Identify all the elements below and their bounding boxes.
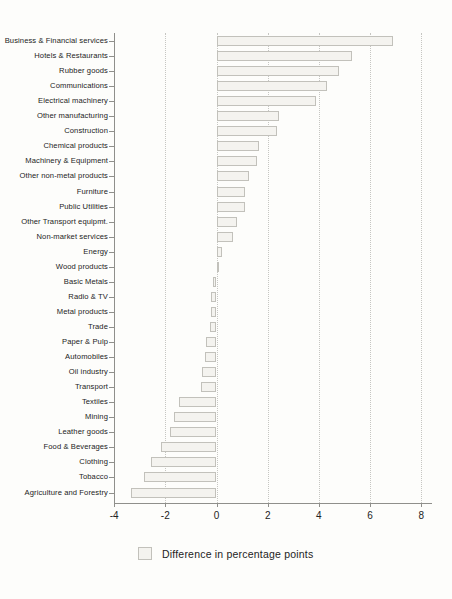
category-label: Hotels & Restaurants	[0, 51, 108, 61]
bar	[211, 292, 216, 302]
x-tick-label: 0	[204, 510, 230, 522]
category-label: Trade	[0, 322, 108, 332]
y-axis-tick	[109, 101, 114, 102]
category-label: Communications	[0, 81, 108, 91]
bar	[217, 171, 249, 181]
y-axis-tick	[109, 176, 114, 177]
category-label: Rubber goods	[0, 66, 108, 76]
legend-label: Difference in percentage points	[162, 548, 313, 560]
bar	[217, 126, 277, 136]
category-label: Oil industry	[0, 367, 108, 377]
category-label: Agriculture and Forestry	[0, 488, 108, 498]
bar	[217, 96, 317, 106]
gridline	[370, 33, 371, 503]
x-tick-label: 2	[255, 510, 281, 522]
y-axis-tick	[109, 282, 114, 283]
bar	[202, 367, 216, 377]
x-axis-tick	[268, 503, 269, 507]
bar	[217, 141, 259, 151]
category-label: Leather goods	[0, 427, 108, 437]
y-axis-line	[114, 33, 115, 503]
bar	[210, 322, 216, 332]
y-axis-tick	[109, 462, 114, 463]
bar	[217, 202, 245, 212]
bar	[179, 397, 216, 407]
y-axis-tick	[109, 116, 114, 117]
category-label: Metal products	[0, 307, 108, 317]
bar	[217, 156, 258, 166]
x-axis-tick	[165, 503, 166, 507]
category-label: Food & Beverages	[0, 442, 108, 452]
bar	[217, 111, 280, 121]
y-axis-tick	[109, 477, 114, 478]
y-axis-tick	[109, 161, 114, 162]
category-label: Construction	[0, 126, 108, 136]
x-axis-tick	[319, 503, 320, 507]
y-axis-tick	[109, 493, 114, 494]
bar	[217, 262, 220, 272]
category-label: Machinery & Equipment	[0, 156, 108, 166]
category-label: Other manufacturing	[0, 111, 108, 121]
category-label: Tobacco	[0, 472, 108, 482]
x-tick-label: 6	[357, 510, 383, 522]
category-label: Paper & Pulp	[0, 337, 108, 347]
gridline	[421, 33, 422, 503]
category-label: Mining	[0, 412, 108, 422]
x-axis-line	[114, 503, 432, 504]
category-label: Basic Metals	[0, 277, 108, 287]
y-axis-tick	[109, 447, 114, 448]
bar	[217, 66, 340, 76]
x-axis-tick	[370, 503, 371, 507]
bar	[217, 232, 234, 242]
y-axis-tick	[109, 402, 114, 403]
bar	[217, 81, 327, 91]
x-tick-label: -2	[152, 510, 178, 522]
y-axis-tick	[109, 71, 114, 72]
gridline	[165, 33, 166, 503]
y-axis-tick	[109, 432, 114, 433]
bar	[170, 427, 216, 437]
category-label: Furniture	[0, 187, 108, 197]
y-axis-tick	[109, 327, 114, 328]
category-label: Other non-metal products	[0, 171, 108, 181]
gridline	[319, 33, 320, 503]
y-axis-tick	[109, 207, 114, 208]
category-label: Non-market services	[0, 232, 108, 242]
bar	[217, 36, 394, 46]
bar	[161, 442, 216, 452]
y-axis-tick	[109, 372, 114, 373]
category-label: Textiles	[0, 397, 108, 407]
x-axis-tick	[217, 503, 218, 507]
bar	[217, 51, 353, 61]
y-axis-tick	[109, 192, 114, 193]
category-label: Other Transport equipmt.	[0, 217, 108, 227]
bar	[217, 217, 237, 227]
y-axis-tick	[109, 312, 114, 313]
category-label: Radio & TV	[0, 292, 108, 302]
bar	[217, 187, 245, 197]
figure: -4-202468Business & Financial servicesHo…	[0, 0, 452, 599]
y-axis-tick	[109, 267, 114, 268]
x-tick-label: 4	[306, 510, 332, 522]
legend: Difference in percentage points	[138, 547, 313, 560]
bar	[211, 307, 216, 317]
x-axis-tick	[421, 503, 422, 507]
y-axis-tick	[109, 237, 114, 238]
y-axis-tick	[109, 252, 114, 253]
legend-swatch-icon	[138, 547, 152, 560]
y-axis-tick	[109, 131, 114, 132]
category-label: Clothing	[0, 457, 108, 467]
plot-area: -4-202468Business & Financial servicesHo…	[0, 0, 452, 599]
y-axis-tick	[109, 56, 114, 57]
x-tick-label: 8	[408, 510, 434, 522]
bar	[217, 247, 222, 257]
category-label: Wood products	[0, 262, 108, 272]
y-axis-tick	[109, 417, 114, 418]
y-axis-tick	[109, 357, 114, 358]
category-label: Automobiles	[0, 352, 108, 362]
category-label: Energy	[0, 247, 108, 257]
y-axis-tick	[109, 297, 114, 298]
bar	[144, 472, 217, 482]
y-axis-tick	[109, 342, 114, 343]
bar	[151, 457, 216, 467]
